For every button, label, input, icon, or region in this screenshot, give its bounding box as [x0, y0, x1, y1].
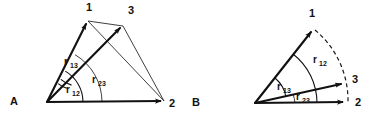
edge-1-3 — [88, 21, 123, 26]
angle-label-r23: r 23 — [92, 74, 106, 87]
angle-label-r12: r 12 — [66, 84, 80, 97]
vertex-label-2: 2 — [169, 97, 175, 109]
vertex-label-3: 3 — [352, 73, 358, 85]
panel-label-a: A — [10, 95, 18, 107]
vertex-label-1: 1 — [309, 7, 315, 19]
angle-label-r23-base: r — [92, 74, 96, 85]
angle-label-r13-sub: 13 — [283, 87, 291, 94]
vertex-label-3: 3 — [128, 4, 134, 16]
panel-a: 1 3 2 r 13 r 12 r 23 A — [10, 1, 175, 109]
angle-label-r13-sub: 13 — [70, 62, 78, 69]
angle-label-r13-base: r — [277, 81, 281, 92]
diagram-svg: 1 3 2 r 13 r 12 r 23 A — [0, 0, 375, 120]
angle-label-r13: r 13 — [277, 81, 291, 94]
edge-1-2 — [88, 21, 164, 101]
panel-label-b: B — [192, 96, 200, 108]
vertex-label-1: 1 — [86, 1, 92, 13]
angle-label-r12: r 12 — [313, 54, 327, 67]
angle-label-r23-base: r — [296, 91, 300, 102]
angle-label-r13-base: r — [64, 56, 68, 67]
vector-origin-to-3 — [47, 28, 120, 102]
panel-b: 1 3 2 r 13 r 12 r 23 B — [192, 7, 361, 108]
angle-label-r23-sub: 23 — [98, 80, 106, 87]
edge-3-2 — [123, 26, 164, 101]
vertex-label-2: 2 — [355, 96, 361, 108]
angle-label-r12-sub: 12 — [319, 60, 327, 67]
angle-label-r12-base: r — [66, 84, 70, 95]
angle-label-r23-sub: 23 — [302, 97, 310, 104]
vector-origin-to-2 — [255, 102, 343, 103]
figure-canvas: 1 3 2 r 13 r 12 r 23 A — [0, 0, 375, 120]
vector-origin-to-2 — [47, 101, 161, 102]
angle-label-r12-base: r — [313, 54, 317, 65]
angle-label-r13: r 13 — [64, 56, 78, 69]
angle-label-r12-sub: 12 — [72, 90, 80, 97]
